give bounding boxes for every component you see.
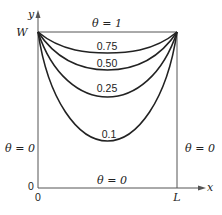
isotherm-label-050: 0.50 (97, 57, 118, 69)
origin-x-label: 0 (35, 191, 41, 203)
y-top-label: W (16, 26, 29, 39)
bottom-boundary-label: θ = 0 (97, 174, 127, 187)
isotherm-label-01: 0.1 (102, 128, 117, 140)
right-boundary-label: θ = 0 (185, 142, 215, 155)
y-axis-label: y (27, 8, 35, 21)
left-boundary-label: θ = 0 (5, 142, 35, 155)
isotherm-diagram: y W θ = 1 0.75 0.50 0.25 0.1 θ = 0 θ = 0… (0, 0, 222, 215)
x-end-label: L (172, 191, 180, 204)
x-axis-label: x (207, 181, 214, 194)
origin-y-label: 0 (28, 180, 34, 192)
x-axis-arrow-icon (198, 186, 206, 191)
top-boundary-label: θ = 1 (92, 17, 122, 30)
isotherm-label-075: 0.75 (97, 40, 118, 52)
isotherm-label-025: 0.25 (97, 82, 118, 94)
y-axis-arrow-icon (36, 10, 41, 18)
